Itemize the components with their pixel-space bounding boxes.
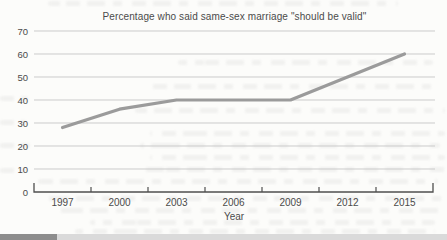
x-tick-label: 2012 xyxy=(336,197,359,208)
y-tick-label: 0 xyxy=(23,187,28,198)
x-axis-line xyxy=(34,183,433,192)
y-tick-label: 70 xyxy=(17,26,28,37)
bottom-strip-light xyxy=(57,234,447,240)
x-tick-label: 2006 xyxy=(222,197,245,208)
chart-figure: Percentage who said same-sex marriage "s… xyxy=(0,0,447,240)
bottom-strip-dark xyxy=(0,234,57,240)
y-tick-label: 20 xyxy=(17,141,28,152)
y-tick-label: 50 xyxy=(17,72,28,83)
line-chart: 0102030405060701997200020032006200920122… xyxy=(0,0,447,240)
y-tick-label: 60 xyxy=(17,49,28,60)
x-tick-label: 2015 xyxy=(393,197,416,208)
data-line xyxy=(63,54,405,128)
x-tick-label: 2000 xyxy=(108,197,131,208)
y-tick-label: 30 xyxy=(17,118,28,129)
y-tick-label: 40 xyxy=(17,95,28,106)
y-tick-label: 10 xyxy=(17,164,28,175)
x-tick-label: 1997 xyxy=(51,197,74,208)
x-tick-label: 2009 xyxy=(279,197,302,208)
x-tick-label: 2003 xyxy=(165,197,188,208)
x-axis-title: Year xyxy=(34,211,434,222)
